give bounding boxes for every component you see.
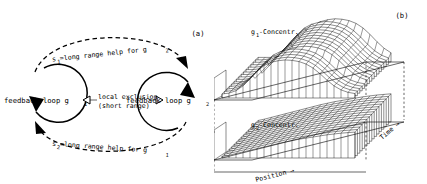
g2-label-main: g — [251, 121, 255, 129]
edge-s1-text-subscript: 2 — [165, 47, 169, 53]
panel-a-feedback-loop-diagram: (a) feedback loop g 1 feedback loop g 2 … — [0, 0, 214, 184]
g1-label-main: g — [251, 28, 255, 36]
local-exclusion-line2: (short range) — [98, 102, 150, 110]
edge-s2-prefix: s — [52, 140, 57, 148]
panel-b-surface-plots: (b) — [214, 0, 427, 184]
edge-s1-text: =long range help for g — [59, 45, 147, 62]
panel-b-canvas: (b) — [214, 0, 427, 184]
node-g2-subscript: 2 — [206, 101, 209, 107]
edge-s1-arrowhead — [176, 56, 188, 69]
local-exclusion-line1: local exclusion — [98, 93, 158, 101]
g2-surface-mesh — [214, 94, 404, 160]
edge-s2-text-group: s 2 =long range help for g 1 — [52, 140, 170, 158]
figure-root: (a) feedback loop g 1 feedback loop g 2 … — [0, 0, 427, 184]
edge-s2-text: =long range help for g — [60, 140, 148, 154]
g2-label-rest: -Concentr. — [259, 121, 299, 129]
g1-label-rest: -Concentr. — [259, 28, 299, 36]
edge-s2-arrowhead — [35, 121, 46, 134]
position-axis-label: Position → — [255, 167, 295, 184]
panel-a-canvas: (a) feedback loop g 1 feedback loop g 2 … — [0, 0, 214, 184]
edge-s2-text-subscript: 1 — [165, 152, 169, 158]
feedback-loop-g1-circle — [29, 64, 87, 122]
g1-surface-label-group: g 1 -Concentr. — [251, 28, 299, 38]
node-g1-label: feedback loop g — [4, 96, 69, 105]
panel-b-label: (b) — [396, 11, 409, 20]
edge-s1-text-group: s 1 =long range help for g 2 — [51, 43, 169, 65]
position-axis-label-group: Position → — [255, 167, 295, 184]
panel-a-label: (a) — [192, 29, 205, 38]
edge-s1-prefix: s — [51, 55, 56, 63]
node-g1-subscript: 1 — [84, 101, 87, 107]
g1-surface-mesh — [214, 19, 404, 100]
